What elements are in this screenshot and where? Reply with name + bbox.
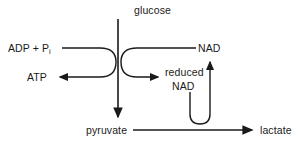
label-lactate: lactate	[260, 124, 292, 136]
label-reduced-nad-line1: reduced	[165, 66, 204, 78]
label-adp-pi-text: ADP + P	[8, 42, 49, 54]
label-glucose: glucose	[0, 4, 305, 16]
label-nad: NAD	[198, 42, 220, 54]
label-reduced-nad-line2: NAD	[172, 80, 194, 92]
label-adp-pi: ADP + Pi	[8, 42, 51, 54]
label-adp-pi-subscript: i	[49, 47, 51, 56]
glycolysis-lactate-diagram: glucose ADP + Pi ATP NAD reduced NAD pyr…	[0, 0, 305, 146]
arrow-adp-pi-to-atp	[60, 48, 116, 77]
label-atp: ATP	[27, 71, 47, 83]
label-pyruvate: pyruvate	[86, 124, 127, 136]
